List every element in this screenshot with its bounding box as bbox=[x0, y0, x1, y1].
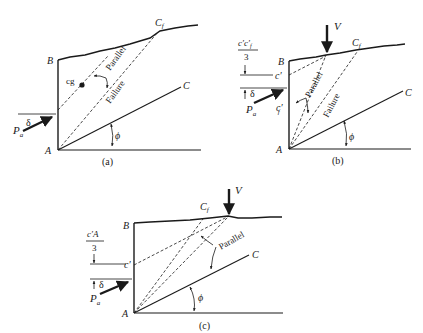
label-Pa: Pa bbox=[89, 292, 101, 307]
caption-a: (a) bbox=[102, 156, 113, 168]
ground-surface bbox=[134, 216, 282, 223]
label-fraction-denominator: 3 bbox=[244, 52, 249, 62]
parallel-leader bbox=[296, 98, 306, 103]
label-c-prime: c′ bbox=[124, 259, 131, 270]
label-A: A bbox=[44, 145, 52, 156]
c-prime-line bbox=[134, 216, 229, 265]
label-C: C bbox=[183, 80, 190, 91]
label-A: A bbox=[121, 308, 129, 319]
phi-arc bbox=[190, 287, 195, 311]
line-AC bbox=[134, 255, 249, 313]
label-fraction-denominator: 3 bbox=[92, 243, 97, 253]
label-Cf: Cf bbox=[200, 201, 210, 214]
label-C: C bbox=[405, 87, 412, 98]
caption-c: (c) bbox=[199, 320, 210, 332]
c-prime-line bbox=[289, 56, 326, 75]
label-parallel: Parallel bbox=[104, 44, 129, 73]
label-cf-prime: c′f bbox=[276, 102, 283, 116]
parallel-line bbox=[289, 55, 326, 149]
parallel-leader-upper bbox=[201, 236, 213, 245]
label-parallel: Parallel bbox=[303, 70, 325, 99]
ground-surface bbox=[58, 25, 198, 60]
label-phi: ϕ bbox=[198, 292, 203, 303]
label-C: C bbox=[252, 249, 259, 260]
parallel-line bbox=[134, 216, 229, 313]
panel-a: B A C Cf cg Parallel Failure Pa δ ϕ (a) bbox=[12, 17, 201, 168]
caption-b: (b) bbox=[332, 155, 344, 167]
label-failure: Failure bbox=[321, 92, 342, 119]
Pa-force-arrow bbox=[100, 282, 128, 294]
cg-point bbox=[79, 82, 84, 87]
label-delta: δ bbox=[250, 88, 255, 99]
label-parallel: Parallel bbox=[217, 229, 246, 252]
parallel-leader bbox=[94, 76, 106, 78]
failure-leader bbox=[106, 78, 107, 88]
label-A: A bbox=[275, 144, 283, 155]
label-Cf: Cf bbox=[352, 37, 362, 50]
parallel-leader-lower bbox=[211, 247, 216, 269]
label-B: B bbox=[278, 56, 284, 67]
phi-arc bbox=[344, 121, 347, 146]
panel-c: V B A C Cf c′A 3 c′ Parallel Pa δ ϕ (c) bbox=[86, 184, 283, 332]
phi-arc bbox=[111, 124, 113, 146]
label-B: B bbox=[47, 55, 53, 66]
label-B: B bbox=[123, 220, 129, 231]
retaining-wall-wedge-diagram: B A C Cf cg Parallel Failure Pa δ ϕ (a) bbox=[0, 0, 423, 333]
label-V: V bbox=[235, 184, 243, 196]
label-phi: ϕ bbox=[349, 131, 354, 142]
label-fraction-numerator: c′A bbox=[87, 229, 99, 239]
ground-surface bbox=[289, 44, 405, 61]
label-V: V bbox=[334, 20, 342, 32]
panel-b: V B A C Cf c′c′f 3 c′ c′f Parallel Failu… bbox=[238, 20, 412, 167]
label-delta: δ bbox=[99, 279, 104, 290]
label-fraction-numerator: c′c′f bbox=[238, 38, 253, 49]
label-Cf: Cf bbox=[155, 17, 165, 30]
failure-plane bbox=[134, 219, 203, 313]
label-phi: ϕ bbox=[115, 130, 120, 141]
label-Pa: Pa bbox=[12, 124, 24, 139]
label-delta: δ bbox=[26, 117, 31, 128]
label-c-prime: c′ bbox=[275, 70, 282, 81]
label-Pa: Pa bbox=[245, 103, 257, 118]
label-cg: cg bbox=[66, 76, 75, 86]
